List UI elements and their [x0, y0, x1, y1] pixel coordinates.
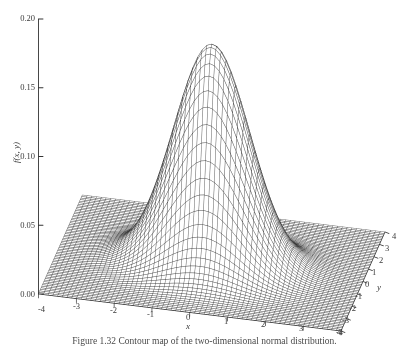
figure-caption: Figure 1.32 Contour map of the two-dimen… — [0, 336, 409, 346]
z-axis-title: f(x, y) — [12, 133, 21, 173]
figure-container: f(x, y) 0.200.150.100.050.00-4-3-2-10123… — [0, 0, 409, 346]
surface-plot-canvas — [0, 0, 409, 346]
